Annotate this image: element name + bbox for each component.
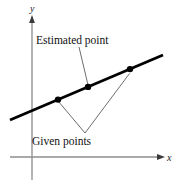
given-points-leader-line-left	[59, 102, 86, 134]
figure-canvas	[0, 0, 178, 185]
data-point-given-2	[127, 66, 133, 72]
estimated-point-leader-line	[79, 47, 88, 85]
x-axis-label: x	[167, 153, 171, 163]
given-points-annotation-label: Given points	[32, 136, 91, 148]
data-point-estimated	[85, 84, 91, 90]
interpolation-figure: y x Estimated point Given points	[0, 0, 178, 185]
x-axis-arrow-icon	[157, 154, 165, 160]
estimated-point-annotation-label: Estimated point	[36, 35, 109, 47]
data-point-given-1	[55, 96, 61, 102]
y-axis-arrow-icon	[29, 15, 35, 23]
given-points-leader-line-right	[85, 74, 130, 134]
y-axis-label: y	[30, 4, 34, 14]
